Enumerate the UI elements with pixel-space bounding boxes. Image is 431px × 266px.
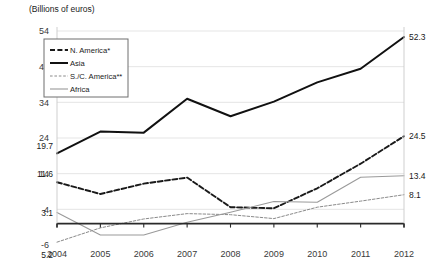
legend-label-3: Africa: [70, 85, 90, 94]
series-line-0: [57, 136, 404, 208]
start-label-0: 11.6: [37, 169, 53, 179]
start-label-3: 3.1: [41, 208, 53, 218]
x-tick-label: 2007: [177, 249, 197, 259]
x-tick-label: 2009: [264, 249, 284, 259]
y-tick-label: 34: [39, 98, 49, 108]
y-tick-label: 54: [39, 26, 49, 36]
x-tick-label: 2010: [307, 249, 327, 259]
x-tick-label: 2011: [351, 249, 370, 259]
chart-unit-title: (Billions of euros): [29, 4, 95, 14]
end-label-0: 24.5: [409, 131, 426, 141]
x-tick-label: 2005: [90, 249, 110, 259]
x-tick-label: 2006: [134, 249, 154, 259]
x-tick-label: 2012: [394, 249, 414, 259]
legend-label-2: S./C. America**: [70, 72, 122, 81]
start-label-1: 19.7: [36, 141, 53, 151]
end-label-3: 13.4: [409, 171, 426, 181]
end-label-1: 52.3: [409, 32, 426, 42]
line-chart: -641424344454 20042005200620072008200920…: [0, 0, 431, 266]
x-axis-ticks: 200420052006200720082009201020112012: [47, 224, 414, 259]
chart-container: -641424344454 20042005200620072008200920…: [0, 0, 431, 266]
chart-legend: N. America*AsiaS./C. America**Africa: [44, 39, 128, 97]
x-tick-label: 2008: [220, 249, 240, 259]
legend-label-1: Asia: [70, 59, 86, 68]
start-label-2: 5.2: [41, 250, 53, 260]
end-label-2: 8.1: [409, 190, 421, 200]
legend-label-0: N. America*: [70, 46, 110, 55]
